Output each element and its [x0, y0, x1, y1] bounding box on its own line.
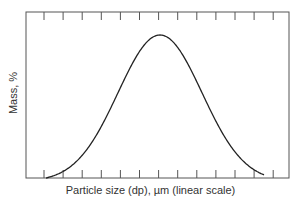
distribution-curve: [46, 35, 264, 178]
plot-frame: [26, 12, 289, 178]
chart-plot: [0, 0, 301, 206]
y-axis-label: Mass, %: [7, 68, 19, 118]
axis-ticks: [44, 12, 273, 178]
x-axis-label: Particle size (dp), µm (linear scale): [0, 184, 301, 196]
